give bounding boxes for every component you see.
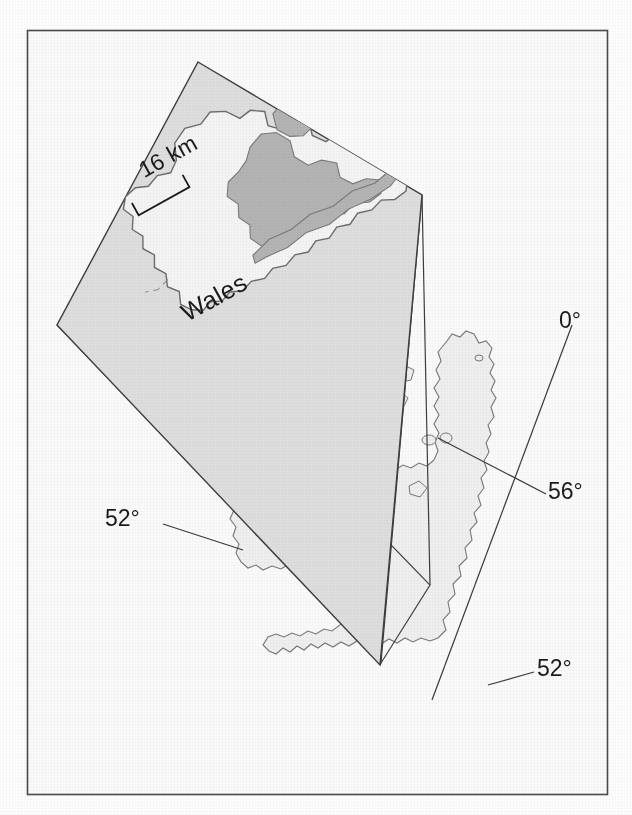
meridian-0-label: 0° [559, 307, 581, 334]
figure-root: 16 km Wales 0° 56° 52° 52° [0, 0, 632, 815]
parallel-56-label: 56° [548, 478, 583, 505]
parallel-52-left-label: 52° [105, 505, 140, 532]
map-canvas [0, 0, 632, 815]
parallel-52-right-label: 52° [537, 655, 572, 682]
